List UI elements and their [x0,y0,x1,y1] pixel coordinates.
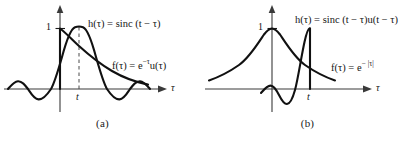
annotation-f-b-base: f(τ) = e [331,62,362,73]
annotation-h-a: h(τ) = sinc (t − τ) [88,19,160,30]
annotation-f-a: f(τ) = e−τu(τ) [112,58,166,71]
x-axis-label-b: τ [376,83,380,93]
x-axis-b [205,86,372,93]
annotation-f-a-tail: u(τ) [150,60,166,71]
caption-a: (a) [0,117,205,129]
panel-b: 1 t τ h(τ) = sinc (t − τ)u(t − τ) f(τ) =… [205,0,410,156]
panel-a: 1 t τ h(τ) = sinc (t − τ) f(τ) = e−τu(τ)… [0,0,205,156]
annotation-f-a-exponent: −τ [143,57,150,66]
annotation-h-b: h(τ) = sinc (t − τ)u(t − τ) [295,15,398,26]
annotation-f-b-exponent: − |τ| [362,59,374,68]
x-tick-label-t-b: t [307,92,310,102]
figure-container: 1 t τ h(τ) = sinc (t − τ) f(τ) = e−τu(τ)… [0,0,410,156]
x-axis-label-a: τ [171,83,175,93]
caption-b: (b) [205,117,410,129]
annotation-f-b: f(τ) = e− |τ| [331,60,374,73]
curve-h-b [261,28,310,104]
y-tick-label-a: 1 [46,22,51,32]
annotation-f-a-base: f(τ) = e [112,60,143,71]
x-tick-label-t-a: t [76,92,79,102]
y-tick-label-b: 1 [258,22,263,32]
y-axis-b [269,5,276,112]
